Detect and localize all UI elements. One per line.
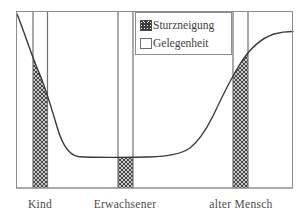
x-axis-label-kind: Kind — [28, 198, 52, 210]
legend-swatch-empty-icon — [140, 38, 152, 49]
band-erwachsener — [118, 12, 133, 189]
x-axis-label-erwachsener: Erwachsener — [94, 198, 157, 210]
legend-entry-gelegenheit: Gelegenheit — [140, 34, 227, 52]
band-kind — [33, 12, 48, 189]
legend-label-sturzneigung: Sturzneigung — [153, 19, 214, 32]
band-alter-mensch — [233, 12, 248, 189]
chart-legend: Sturzneigung Gelegenheit — [135, 12, 232, 55]
chart-figure: Sturzneigung Gelegenheit Kind Erwachsene… — [0, 0, 307, 221]
x-axis-label-alter-mensch: alter Mensch — [209, 198, 272, 210]
legend-entry-sturzneigung: Sturzneigung — [140, 16, 227, 34]
legend-swatch-hatched-icon — [140, 20, 152, 31]
legend-label-gelegenheit: Gelegenheit — [153, 37, 209, 50]
